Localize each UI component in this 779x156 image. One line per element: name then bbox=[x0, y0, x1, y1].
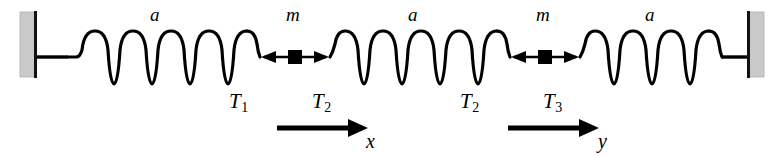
spring-left-tail bbox=[247, 31, 260, 57]
spring-middle bbox=[330, 31, 510, 84]
wall-left bbox=[20, 11, 68, 78]
spring-left bbox=[68, 31, 260, 84]
tension-3-subscript: 3 bbox=[555, 100, 562, 115]
tension-1-subscript: 1 bbox=[241, 100, 248, 115]
displacement-x-arrow bbox=[277, 119, 368, 137]
mass-left-arrowhead-left bbox=[261, 51, 276, 63]
spring-right-length-label: a bbox=[645, 5, 655, 24]
tension-2-left-label: T2 bbox=[312, 91, 331, 115]
tension-2-left-symbol: T bbox=[312, 89, 324, 113]
spring-middle-coils bbox=[330, 31, 497, 84]
tension-2-right-label: T2 bbox=[460, 91, 479, 115]
tension-2-left-subscript: 2 bbox=[324, 100, 331, 115]
diagram-canvas bbox=[0, 0, 779, 156]
mass-left-block bbox=[288, 50, 302, 64]
displacement-y-label: y bbox=[598, 131, 607, 151]
spring-right bbox=[580, 31, 722, 84]
spring-right-tail bbox=[709, 31, 722, 57]
mass-right-arrow-group bbox=[511, 50, 579, 64]
spring-left-coils bbox=[68, 31, 247, 84]
tension-3-label: T3 bbox=[543, 91, 562, 115]
mass-right-arrowhead-left bbox=[511, 51, 526, 63]
wall-right-hatch bbox=[749, 12, 764, 77]
tension-3-symbol: T bbox=[543, 89, 555, 113]
mass-right-block bbox=[538, 50, 552, 64]
mass-right-label: m bbox=[536, 5, 550, 24]
spring-mass-chain-diagram: a a a m m T1 T2 T2 T3 x y bbox=[0, 0, 779, 156]
spring-right-coils bbox=[580, 31, 709, 84]
tension-1-label: T1 bbox=[229, 91, 248, 115]
spring-middle-length-label: a bbox=[408, 5, 418, 24]
tension-2-right-symbol: T bbox=[460, 89, 472, 113]
displacement-y-arrow bbox=[508, 119, 599, 137]
displacement-y-arrowhead bbox=[579, 119, 599, 137]
wall-right bbox=[722, 11, 764, 78]
mass-left-label: m bbox=[286, 5, 300, 24]
spring-middle-tail bbox=[497, 31, 510, 57]
wall-left-hatch bbox=[20, 12, 35, 77]
mass-left-arrow-group bbox=[261, 50, 329, 64]
mass-left-arrowhead-right bbox=[314, 51, 329, 63]
tension-1-symbol: T bbox=[229, 89, 241, 113]
spring-left-length-label: a bbox=[150, 5, 160, 24]
displacement-x-label: x bbox=[366, 131, 375, 151]
mass-right-arrowhead-right bbox=[564, 51, 579, 63]
displacement-x-arrowhead bbox=[348, 119, 368, 137]
tension-2-right-subscript: 2 bbox=[472, 100, 479, 115]
